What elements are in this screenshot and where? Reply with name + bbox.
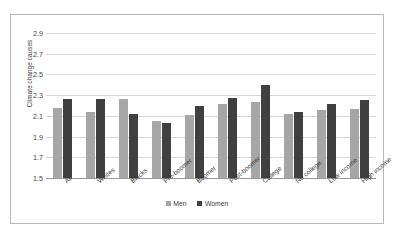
bar-women [162, 123, 171, 178]
bar-women [294, 112, 303, 178]
bar-group [145, 33, 178, 178]
legend-label-women: Women [205, 200, 228, 207]
bar-group [46, 33, 79, 178]
bar-men [53, 108, 62, 178]
y-axis-tick-label: 2.5 [33, 70, 43, 79]
bar-men [152, 121, 161, 178]
bar-group [211, 33, 244, 178]
bar-women [228, 98, 237, 178]
bar-women [129, 114, 138, 178]
bar-men [86, 112, 95, 178]
bar-groups [46, 33, 376, 178]
y-axis-tick-label: 1.7 [33, 153, 43, 162]
y-axis-title: Climate change causes [26, 9, 33, 139]
bar-women [96, 99, 105, 178]
plot-area: 1.51.71.92.12.32.52.72.9 [46, 33, 376, 178]
legend-swatch-men-icon [166, 201, 171, 206]
chart-legend: Men Women [11, 200, 383, 207]
bar-men [317, 110, 326, 178]
legend-item-men: Men [166, 200, 187, 207]
bar-women [261, 85, 270, 178]
bar-men [119, 99, 128, 178]
y-axis-tick-label: 2.9 [33, 29, 43, 38]
bar-group [112, 33, 145, 178]
bar-men [185, 115, 194, 178]
bar-group [310, 33, 343, 178]
bar-group [244, 33, 277, 178]
chart-frame: Climate change causes 1.51.71.92.12.32.5… [10, 14, 384, 224]
legend-label-men: Men [173, 200, 186, 207]
legend-item-women: Women [197, 200, 228, 207]
bar-women [195, 106, 204, 179]
y-axis-tick-label: 1.9 [33, 132, 43, 141]
legend-swatch-women-icon [197, 201, 202, 206]
y-axis-tick-label: 2.7 [33, 49, 43, 58]
y-axis-tick-label: 1.5 [33, 174, 43, 183]
bar-men [284, 114, 293, 178]
bar-women [63, 99, 72, 178]
bar-group [79, 33, 112, 178]
bar-women [360, 100, 369, 178]
bar-group [277, 33, 310, 178]
y-axis-tick-label: 2.1 [33, 111, 43, 120]
y-axis-tick-label: 2.3 [33, 91, 43, 100]
bar-men [218, 104, 227, 178]
bar-group [343, 33, 376, 178]
bar-group [178, 33, 211, 178]
bar-women [327, 104, 336, 178]
